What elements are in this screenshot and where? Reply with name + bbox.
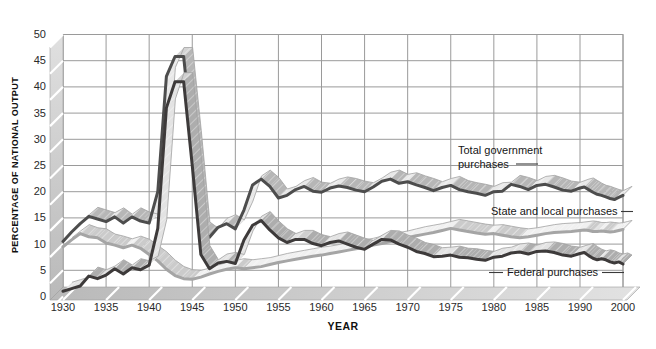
y-tick-label: 45 (18, 54, 46, 66)
x-tick-label: 1950 (215, 301, 255, 313)
x-axis-title: YEAR (63, 320, 623, 332)
y-tick-label: 35 (18, 107, 46, 119)
x-tick-label: 1975 (431, 301, 471, 313)
x-tick-label: 1985 (517, 301, 557, 313)
y-tick-label: 25 (18, 159, 46, 171)
x-tick-label: 1940 (129, 301, 169, 313)
x-tick-label: 1960 (302, 301, 342, 313)
x-tick-label: 1965 (345, 301, 385, 313)
label-federal-purchases: Federal purchases (507, 266, 598, 280)
label-state-and-local-purchases: State and local purchases (491, 205, 618, 219)
y-tick-label: 10 (18, 238, 46, 250)
x-tick-label: 1980 (474, 301, 514, 313)
y-tick-label: 30 (18, 133, 46, 145)
label-total-government-purchases: Total government purchases (458, 144, 570, 171)
x-tick-label: 2000 (603, 301, 643, 313)
x-tick-label: 1970 (388, 301, 428, 313)
x-tick-label: 1955 (258, 301, 298, 313)
y-tick-label: 5 (18, 264, 46, 276)
x-tick-label: 1990 (560, 301, 600, 313)
y-tick-label: 20 (18, 185, 46, 197)
chart-canvas (0, 0, 656, 349)
chart: 0510152025303540455019301935194019451950… (0, 0, 656, 349)
y-axis-title: PERCENTAGE OF NATIONAL OUTPUT (10, 74, 20, 256)
y-tick-label: 40 (18, 80, 46, 92)
x-tick-label: 1930 (43, 301, 83, 313)
y-tick-label: 15 (18, 211, 46, 223)
y-tick-label: 50 (18, 28, 46, 40)
y-tick-label: 0 (18, 290, 46, 302)
x-tick-label: 1945 (172, 301, 212, 313)
x-axis-floor-band (50, 287, 640, 300)
x-tick-label: 1935 (86, 301, 126, 313)
